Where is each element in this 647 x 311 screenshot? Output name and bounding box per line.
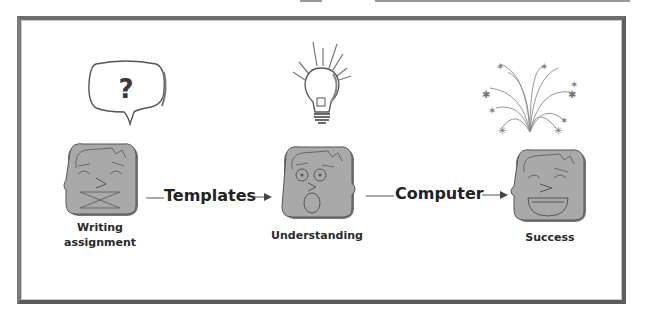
stage-label-writing: Writing assignment [60,220,140,250]
surprised-face-icon [278,143,358,223]
top-rule-right [375,0,630,2]
svg-text:✶: ✶ [560,115,568,126]
svg-text:✶: ✶ [570,79,578,90]
arrow-1-left-line [146,196,164,200]
arrow-2-left-line [366,194,394,198]
top-rule-left [300,0,322,2]
question-mark: ? [118,74,133,104]
templates-arrow-label: Templates [164,186,256,205]
stage-label-understanding: Understanding [262,228,372,243]
svg-text:✳: ✳ [554,125,562,136]
puzzled-face-icon [62,140,142,220]
fireworks-icon: ✶ ✶ ✱ ✶ ✱ ✶ ✳ ✳ ✶ [470,52,590,136]
stage-label-line1: Writing [60,220,140,235]
happy-face-icon [510,146,590,226]
svg-text:✳: ✳ [498,125,506,136]
svg-text:✱: ✱ [568,89,576,100]
lightbulb-icon [285,40,355,130]
question-bubble-icon: ? [86,58,170,130]
stage-label-success: Success [510,230,590,245]
svg-text:✶: ✶ [488,105,496,116]
svg-text:✱: ✱ [482,89,490,100]
svg-text:✶: ✶ [540,61,548,72]
computer-arrow-label: Computer [395,184,484,203]
arrow-2-head [482,190,510,200]
stage-label-line2: assignment [60,235,140,250]
arrow-1-head [252,192,272,202]
svg-text:✶: ✶ [496,61,504,72]
